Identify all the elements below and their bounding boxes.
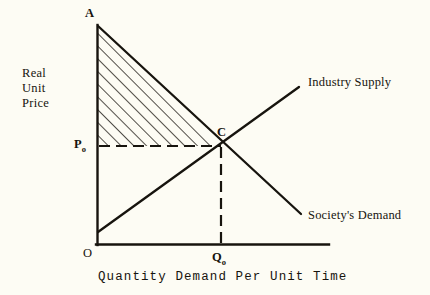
price-axis-label: Po [74,137,86,154]
supply-curve-label: Industry Supply [308,75,391,90]
y-axis-title-line-2: Unit [22,81,45,95]
price-label-base: P [74,137,82,151]
price-label-subscript: o [82,144,86,154]
x-axis-title: Quantity Demand Per Unit Time [98,270,347,285]
y-axis-title: RealUnitPrice [22,66,49,110]
quantity-label-subscript: o [222,257,226,267]
origin-label: O [83,246,92,261]
point-label-a: A [85,6,94,21]
supply-demand-figure: RealUnitPrice Quantity Demand Per Unit T… [0,0,430,295]
quantity-axis-label: Qo [212,250,226,267]
demand-curve-label: Society's Demand [308,208,401,223]
point-label-c: C [217,125,226,140]
y-axis-title-line-3: Price [22,96,49,110]
y-axis-title-line-1: Real [22,66,46,80]
quantity-label-base: Q [212,250,222,264]
